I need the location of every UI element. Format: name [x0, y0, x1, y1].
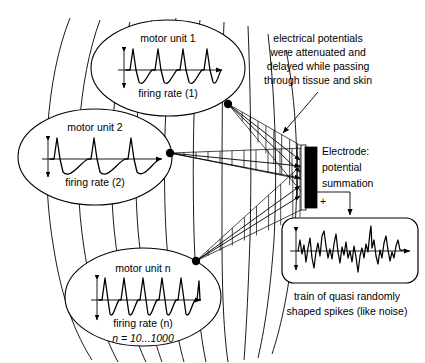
tissue-note-line-3: delayed while passing: [267, 60, 370, 72]
electrode-plus-sign: +: [320, 195, 326, 207]
diagram-canvas: motor unit 1 firing rate (1) motor unit …: [0, 0, 425, 363]
tissue-note-line-4: through tissue and skin: [264, 74, 372, 86]
tissue-attenuation-annotation: electrical potentials were attenuated an…: [264, 32, 372, 133]
tissue-note-line-2: were attenuated and: [269, 46, 366, 58]
conduction-rays: [170, 104, 300, 261]
electrode-label-line-1: Electrode:: [322, 145, 369, 157]
motor-unit-n[interactable]: motor unit n firing rate (n) n = 10...10…: [65, 248, 221, 346]
electrode-label-line-2: potential: [322, 161, 362, 173]
cone-from-unit-1: [228, 104, 305, 196]
motor-unit-1-subtitle: firing rate (1): [138, 87, 198, 99]
motor-unit-n-title: motor unit n: [115, 262, 171, 274]
motor-unit-n-count-note: n = 10...1000: [112, 332, 174, 344]
motor-unit-1-title: motor unit 1: [140, 32, 196, 44]
tissue-note-leader-arrow: [283, 92, 318, 133]
electrode-label-line-3: summation: [322, 177, 374, 189]
output-signal-box[interactable]: train of quasi randomly shaped spikes (l…: [282, 218, 418, 317]
electrode[interactable]: Electrode: potential summation +: [301, 145, 374, 210]
motor-unit-n-source-dot: [192, 257, 200, 265]
motor-unit-2-title: motor unit 2: [67, 121, 123, 133]
electrode-bar: [305, 147, 317, 208]
output-caption-line-1: train of quasi randomly: [294, 290, 401, 302]
motor-unit-2[interactable]: motor unit 2 firing rate (2): [18, 109, 174, 205]
motor-unit-n-subtitle: firing rate (n): [113, 317, 173, 329]
output-caption-line-2: shaped spikes (like noise): [287, 305, 408, 317]
emg-motor-unit-diagram: motor unit 1 firing rate (1) motor unit …: [0, 0, 425, 363]
tissue-note-line-1: electrical potentials: [273, 32, 362, 44]
motor-unit-1[interactable]: motor unit 1 firing rate (1): [91, 20, 245, 116]
motor-unit-2-source-dot: [166, 149, 174, 157]
motor-unit-2-subtitle: firing rate (2): [65, 176, 125, 188]
motor-unit-1-source-dot: [224, 100, 232, 108]
